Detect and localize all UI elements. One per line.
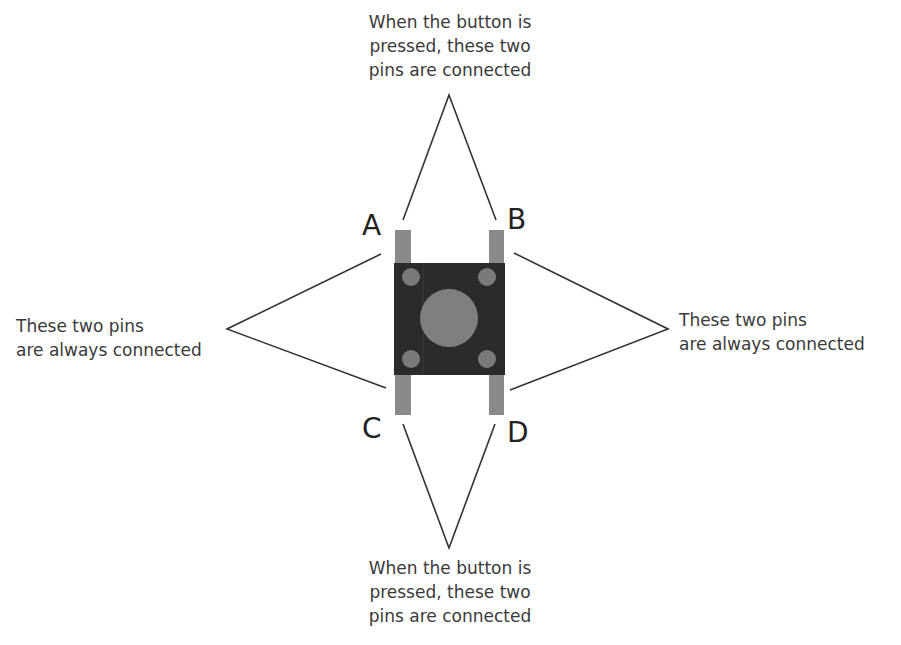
top-annotation: When the button is pressed, these two pi…	[340, 10, 560, 82]
top-annotation-line3: pins are connected	[340, 58, 560, 82]
left-annotation-line2: are always connected	[16, 338, 236, 362]
right-annotation-line1: These two pins	[679, 308, 899, 332]
pin-d	[489, 370, 504, 415]
push-button-cap	[420, 289, 478, 347]
corner-dot-top-left	[402, 268, 420, 286]
right-leader-line	[510, 253, 668, 390]
left-annotation-line1: These two pins	[16, 314, 236, 338]
top-annotation-line1: When the button is	[340, 10, 560, 34]
pin-c	[395, 370, 411, 415]
top-annotation-line2: pressed, these two	[340, 34, 560, 58]
pin-label-a: A	[362, 211, 381, 241]
left-annotation: These two pins are always connected	[16, 314, 236, 362]
corner-dot-top-right	[478, 268, 496, 286]
corner-dot-bottom-right	[478, 350, 496, 368]
pin-label-b: B	[507, 205, 526, 235]
bottom-annotation-line2: pressed, these two	[340, 580, 560, 604]
bottom-annotation-line3: pins are connected	[340, 604, 560, 628]
right-annotation: These two pins are always connected	[679, 308, 899, 356]
corner-dot-bottom-left	[402, 350, 420, 368]
bottom-leader-line	[403, 424, 495, 548]
pin-label-c: C	[362, 414, 382, 444]
top-leader-line	[403, 95, 496, 220]
bottom-annotation-line1: When the button is	[340, 556, 560, 580]
pin-label-d: D	[507, 418, 529, 448]
left-leader-line	[227, 254, 386, 388]
bottom-annotation: When the button is pressed, these two pi…	[340, 556, 560, 628]
right-annotation-line2: are always connected	[679, 332, 899, 356]
